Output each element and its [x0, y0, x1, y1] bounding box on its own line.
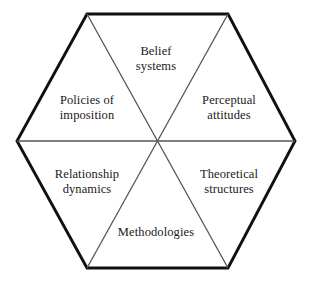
hexagon-canvas: [0, 0, 310, 281]
hexagon-diagram: Belief systems Perceptual attitudes Theo…: [0, 0, 310, 281]
